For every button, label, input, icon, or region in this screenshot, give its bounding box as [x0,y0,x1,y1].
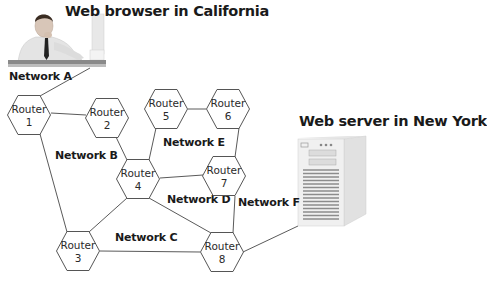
network-label-c: Network C [115,231,178,244]
router-number: 8 [200,253,244,265]
browser-title: Web browser in California [65,3,269,19]
router-label: Router [202,164,246,176]
router-label: Router [56,239,100,251]
hexagon-icon [116,159,160,199]
router-1: Router 1 [7,95,51,135]
link-router3-router8 [100,251,200,252]
router-label: Router [206,97,250,109]
link-router1-router2 [51,113,86,115]
link-router6-router7 [235,128,239,157]
router-number: 3 [56,252,100,264]
router-number: 4 [116,180,160,192]
router-label: Router [7,103,51,115]
network-label-a: Network A [9,70,72,83]
hexagon-icon [202,156,246,196]
router-number: 2 [85,119,129,131]
link-router4-router7 [160,175,203,178]
router-4: Router 4 [116,159,160,199]
router-label: Router [200,240,244,252]
hexagon-icon [200,232,244,272]
link-router8-server [243,226,298,252]
router-5: Router 5 [144,89,188,129]
router-6: Router 6 [206,89,250,129]
web-server-illustration [296,134,368,230]
hexagon-icon [56,231,100,271]
server-title: Web server in New York [299,113,487,129]
router-7: Router 7 [202,156,246,196]
router-number: 7 [202,177,246,189]
network-label-b: Network B [55,149,118,162]
link-router4-router5 [149,128,156,160]
router-2: Router 2 [85,98,129,138]
hexagon-icon [144,89,188,129]
link-router7-router8 [233,196,235,233]
router-number: 5 [144,110,188,122]
hexagon-icon [206,89,250,129]
hexagon-icon [7,95,51,135]
link-router4-router3 [89,198,127,232]
router-number: 6 [206,110,250,122]
network-label-f: Network F [238,196,300,209]
router-8: Router 8 [200,232,244,272]
router-label: Router [116,167,160,179]
network-label-e: Network E [163,136,225,149]
router-label: Router [85,106,129,118]
hexagon-icon [85,98,129,138]
router-label: Router [144,97,188,109]
router-number: 1 [7,116,51,128]
router-3: Router 3 [56,231,100,271]
